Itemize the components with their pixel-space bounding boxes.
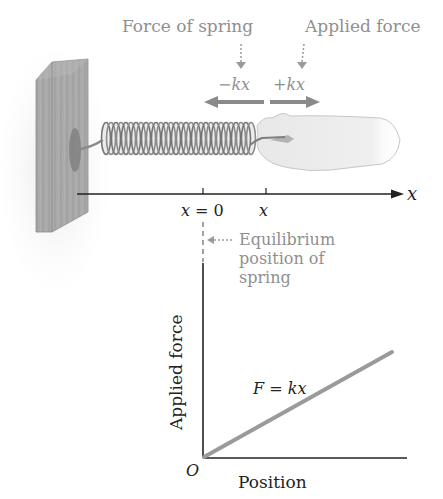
- equilibrium-line3: spring: [239, 268, 335, 287]
- tick-x-zero-label: x = 0: [181, 201, 224, 220]
- graph-origin-label: O: [186, 461, 199, 480]
- equilibrium-line1: Equilibrium: [239, 230, 335, 249]
- force-of-spring-label: Force of spring: [122, 16, 253, 36]
- wooden-wall-icon: [36, 59, 88, 232]
- graph-line-label: F = kx: [253, 379, 306, 398]
- force-position-graph: [203, 263, 407, 458]
- graph-line-f-kx: [204, 352, 392, 457]
- applied-force-pointer: [297, 44, 307, 69]
- spring-force-arrow: [204, 96, 264, 108]
- equilibrium-label: Equilibrium position of spring: [239, 230, 335, 287]
- force-of-spring-pointer: [236, 44, 246, 69]
- axis-x-label: x: [407, 183, 417, 204]
- position-axis: [77, 188, 404, 199]
- pos-kx-label: +kx: [273, 75, 305, 94]
- equilibrium-line2: position of: [239, 249, 335, 268]
- tick-x-label: x: [259, 201, 268, 220]
- graph-y-label: Applied force: [166, 315, 186, 431]
- graph-x-label: Position: [238, 472, 307, 492]
- equilibrium-pointer: [207, 236, 233, 244]
- neg-kx-label: −kx: [218, 75, 250, 94]
- applied-force-arrow: [270, 96, 320, 108]
- applied-force-label: Applied force: [305, 16, 421, 36]
- hand-icon: [257, 113, 400, 170]
